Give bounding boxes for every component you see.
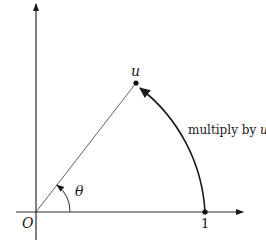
- multiply-caption-var: u: [260, 123, 266, 137]
- multiply-caption-prefix: multiply by: [188, 123, 260, 137]
- origin-label: O: [22, 216, 33, 230]
- point-u: [133, 80, 138, 85]
- angle-theta-label: θ: [75, 184, 83, 198]
- unit-point-label: 1: [201, 217, 209, 230]
- point-one: [202, 209, 207, 214]
- ray-to-u: [36, 83, 136, 212]
- multiply-caption: multiply by u: [188, 124, 266, 136]
- u-point-label: u: [131, 64, 140, 78]
- multiply-arc: [140, 88, 205, 212]
- angle-arc: [57, 185, 70, 212]
